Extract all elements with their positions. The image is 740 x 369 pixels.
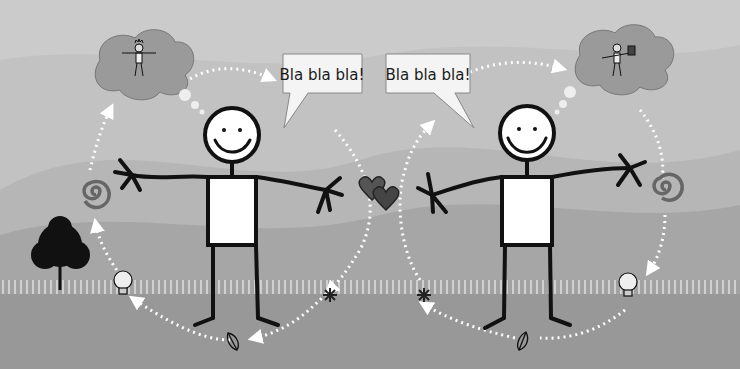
- illustration: Bla bla bla! Bla bla bla!: [0, 0, 740, 369]
- body-right: [502, 177, 552, 245]
- scene-svg: Bla bla bla! Bla bla bla!: [0, 0, 740, 369]
- head-left: [205, 108, 259, 162]
- speech-text-left: Bla bla bla!: [280, 66, 365, 84]
- speech-text-right: Bla bla bla!: [386, 66, 471, 84]
- sparkle-icon-left: [323, 288, 337, 302]
- sparkle-icon-right: [417, 288, 431, 302]
- body-left: [208, 177, 256, 245]
